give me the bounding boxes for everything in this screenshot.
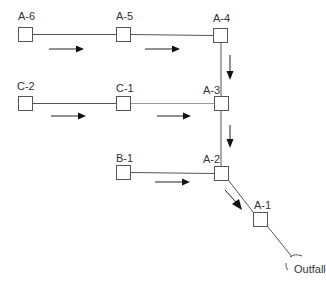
flow-arrow-down-icon (227, 125, 234, 148)
flow-arrow-right-icon (49, 46, 84, 53)
pipe-b1-a2 (131, 173, 214, 174)
label-outfall: Outfall (294, 263, 326, 275)
sewer-network-diagram: A-6 A-5 A-4 C-2 C-1 A-3 B-1 A-2 A-1 Outf… (0, 0, 326, 289)
label-a4: A-4 (213, 12, 230, 24)
label-a1: A-1 (254, 199, 271, 211)
label-a2: A-2 (203, 153, 220, 165)
label-c2: C-2 (17, 80, 35, 92)
flow-arrow-diagonal-icon (225, 190, 242, 210)
node-a2 (215, 167, 229, 181)
pipe-a1-outfall (268, 227, 292, 257)
label-c1: C-1 (116, 82, 134, 94)
label-a5: A-5 (116, 10, 133, 22)
node-a4 (214, 29, 228, 43)
flow-arrow-right-icon (155, 179, 190, 186)
labels: A-6 A-5 A-4 C-2 C-1 A-3 B-1 A-2 A-1 Outf… (17, 10, 326, 275)
node-b1 (117, 166, 131, 180)
node-a6 (19, 28, 33, 42)
node-a1 (254, 213, 268, 227)
pipe-a5-a4 (131, 35, 213, 36)
flow-arrow-right-icon (51, 113, 86, 120)
node-c2 (19, 97, 33, 111)
flow-arrows (49, 46, 242, 211)
label-a6: A-6 (18, 10, 35, 22)
flow-arrow-right-icon (157, 113, 191, 120)
node-c1 (117, 97, 131, 111)
flow-arrow-right-icon (145, 46, 180, 53)
label-a3: A-3 (203, 84, 220, 96)
flow-arrow-down-icon (227, 55, 234, 80)
node-a3 (215, 97, 229, 111)
node-a5 (117, 28, 131, 42)
label-b1: B-1 (116, 152, 133, 164)
